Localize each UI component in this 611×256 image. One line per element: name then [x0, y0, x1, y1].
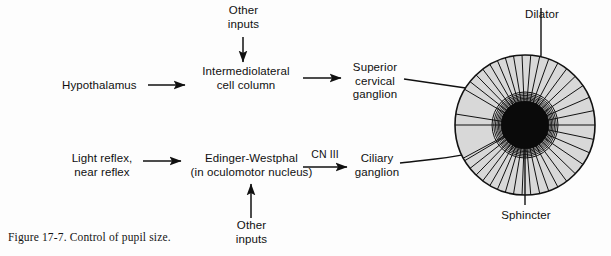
- scg-line3: ganglion: [347, 88, 403, 102]
- cn-three-text: CN III: [303, 148, 347, 162]
- light-reflex-line2: near reflex: [62, 166, 142, 180]
- node-superior-cervical-ganglion: Superior cervical ganglion: [347, 61, 403, 102]
- node-hypothalamus: Hypothalamus: [62, 79, 137, 93]
- iml-line2: cell column: [190, 79, 302, 93]
- dilator-text: Dilator: [512, 8, 572, 22]
- other-inputs-top-line1: Other: [216, 4, 271, 18]
- node-light-reflex: Light reflex, near reflex: [62, 152, 142, 179]
- hypothalamus-label: Hypothalamus: [62, 79, 137, 93]
- light-reflex-line1: Light reflex,: [62, 152, 142, 166]
- node-other-inputs-bottom: Other inputs: [224, 219, 279, 246]
- other-inputs-bottom-line2: inputs: [224, 233, 279, 247]
- pupil: [501, 101, 549, 149]
- edinger-westphal-line2: (in oculomotor nucleus): [183, 166, 320, 180]
- label-dilator: Dilator: [512, 8, 572, 22]
- ciliary-line1: Ciliary: [352, 152, 402, 166]
- other-inputs-top-line2: inputs: [216, 18, 271, 32]
- label-sphincter: Sphincter: [490, 209, 562, 223]
- scg-line2: cervical: [347, 75, 403, 89]
- ciliary-line2: ganglion: [352, 166, 402, 180]
- node-edinger-westphal: Edinger-Westphal (in oculomotor nucleus): [183, 152, 320, 179]
- label-cn-three: CN III: [303, 148, 347, 162]
- other-inputs-bottom-line1: Other: [224, 219, 279, 233]
- node-intermediolateral-cell-column: Intermediolateral cell column: [190, 65, 302, 92]
- iml-line1: Intermediolateral: [190, 65, 302, 79]
- figure-caption: Figure 17-7. Control of pupil size.: [8, 231, 171, 243]
- edinger-westphal-line1: Edinger-Westphal: [183, 152, 320, 166]
- figure-control-of-pupil-size: Other inputs Hypothalamus Intermediolate…: [0, 0, 611, 256]
- sphincter-text: Sphincter: [490, 209, 562, 223]
- node-ciliary-ganglion: Ciliary ganglion: [352, 152, 402, 179]
- node-other-inputs-top: Other inputs: [216, 4, 271, 31]
- iris-illustration: [436, 8, 595, 227]
- scg-line1: Superior: [347, 61, 403, 75]
